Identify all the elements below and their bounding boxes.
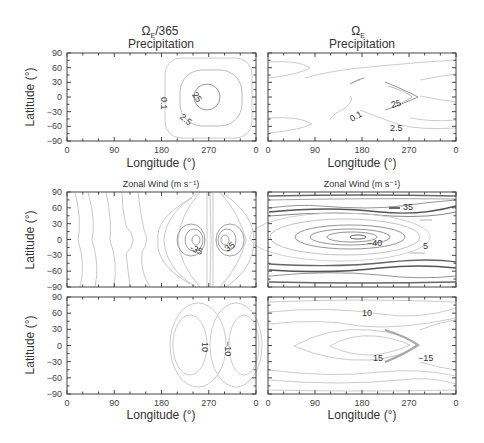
xtick-label: 90 (109, 398, 119, 408)
contour-label: 10 (362, 308, 372, 318)
figure: ΩE/365 Precipitation ΩE Precipitation Zo… (0, 0, 484, 443)
svg-text:Precipitation: Precipitation (128, 37, 194, 51)
xtick-label: 0 (64, 145, 69, 155)
ytick-label: 0 (57, 235, 62, 245)
ytick-label: 90 (52, 292, 62, 302)
xtick-label: 90 (109, 145, 119, 155)
ytick-label: 0 (57, 341, 62, 351)
xlabel-bottom-left: Longitude (°) (127, 408, 196, 422)
contour-label: −40 (367, 238, 382, 248)
xtick-label: 270 (401, 398, 416, 408)
row-title-zonal-right: Zonal Wind (m s⁻¹) (324, 179, 401, 189)
ytick-label: −60 (47, 266, 62, 276)
contour-label: 5 (423, 241, 428, 251)
ytick-label: 30 (52, 324, 62, 334)
ytick-label: −60 (47, 121, 62, 131)
xtick-label: 180 (154, 145, 169, 155)
panel-slow-bottom (170, 303, 262, 387)
xlabel-top-left: Longitude (°) (127, 156, 196, 170)
xtick-label: 0 (253, 398, 258, 408)
xtick-label: 0 (453, 398, 458, 408)
panel-earth-zonal-wind (250, 195, 456, 283)
xtick-label: 90 (310, 398, 320, 408)
contour-label: 25 (390, 98, 402, 110)
xlabel-top-right: Longitude (°) (328, 156, 397, 170)
panel-earth-precipitation (269, 60, 456, 133)
ytick-label: 30 (52, 77, 62, 87)
contour-label: 0.1 (159, 97, 169, 110)
xtick-label: 0 (253, 145, 258, 155)
xtick-label: 270 (401, 145, 416, 155)
ytick-label: 30 (52, 219, 62, 229)
ytick-label: −30 (47, 107, 62, 117)
xtick-label: 180 (154, 398, 169, 408)
xtick-label: 270 (201, 145, 216, 155)
ytick-label: 60 (52, 308, 62, 318)
ylabel-top: Latitude (°) (23, 68, 37, 127)
ytick-label: −90 (47, 136, 62, 146)
ytick-label: −90 (47, 389, 62, 399)
ytick-label: 60 (52, 203, 62, 213)
ytick-label: 0 (57, 92, 62, 102)
xtick-label: 270 (201, 398, 216, 408)
panel-slow-zonal-wind (75, 192, 254, 287)
column-title-right: ΩE Precipitation (329, 24, 395, 51)
ylabel-middle: Latitude (°) (23, 211, 37, 270)
xtick-label: 180 (354, 398, 369, 408)
xtick-label: 0 (453, 145, 458, 155)
xtick-label: 0 (265, 145, 270, 155)
ytick-label: −30 (47, 357, 62, 367)
svg-text:Precipitation: Precipitation (329, 37, 395, 51)
ytick-label: 60 (52, 63, 62, 73)
xlabel-bottom-right: Longitude (°) (328, 408, 397, 422)
xtick-label: 180 (354, 145, 369, 155)
xtick-label: 0 (265, 398, 270, 408)
contour-label: 15 (373, 353, 383, 363)
contour-label: −10 (223, 341, 233, 356)
column-title-left: ΩE/365 Precipitation (128, 24, 194, 51)
ytick-label: 90 (52, 187, 62, 197)
contour-label: 35 (223, 240, 237, 254)
contour-label: 10 (200, 342, 210, 352)
ytick-label: −30 (47, 250, 62, 260)
ytick-label: −60 (47, 373, 62, 383)
row-title-zonal-left: Zonal Wind (m s⁻¹) (123, 179, 200, 189)
xtick-label: 90 (310, 145, 320, 155)
ylabel-bottom: Latitude (°) (23, 316, 37, 375)
contour-label: −15 (418, 353, 433, 363)
contour-label: 35 (403, 202, 413, 212)
ytick-label: 90 (52, 48, 62, 58)
contour-label: 2.5 (390, 123, 403, 133)
xtick-label: 0 (64, 398, 69, 408)
panel-slow-precipitation: 0.1 25 2.5 (67, 53, 256, 141)
ytick-label: −90 (47, 282, 62, 292)
